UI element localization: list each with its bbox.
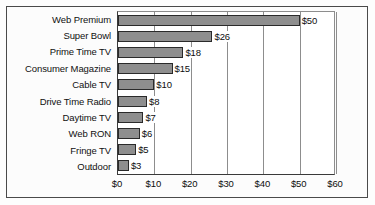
bar-value-label: $3 <box>131 160 142 171</box>
x-tick-label: $20 <box>182 178 198 189</box>
bar-value-label: $26 <box>214 31 231 42</box>
x-tick-label: $30 <box>218 178 234 189</box>
category-label: Consumer Magazine <box>8 63 114 74</box>
bar-row: $5 <box>118 144 334 155</box>
bar-row: $18 <box>118 47 334 58</box>
category-label: Prime Time TV <box>8 46 114 57</box>
bar-chart-figure: Web PremiumSuper BowlPrime Time TVConsum… <box>0 0 375 205</box>
bar-row: $50 <box>118 15 334 26</box>
x-tick-label: $10 <box>146 178 162 189</box>
bar-value-label: $10 <box>156 79 173 90</box>
bar <box>118 15 300 26</box>
bar-row: $10 <box>118 79 334 90</box>
bar <box>118 47 183 58</box>
bar-row: $8 <box>118 96 334 107</box>
bar <box>118 96 147 107</box>
bar <box>118 112 143 123</box>
bar-row: $15 <box>118 63 334 74</box>
category-label: Web Premium <box>8 14 114 25</box>
bar-row: $7 <box>118 112 334 123</box>
bar <box>118 31 212 42</box>
category-label: Outdoor <box>8 161 114 172</box>
category-label: Super Bowl <box>8 30 114 41</box>
bar <box>118 63 173 74</box>
bar-value-label: $50 <box>302 15 319 26</box>
x-tick-label: $40 <box>255 178 271 189</box>
bar-value-label: $5 <box>138 144 149 155</box>
bar-row: $6 <box>118 128 334 139</box>
x-tick-label: $0 <box>112 178 122 189</box>
category-axis: Web PremiumSuper BowlPrime Time TVConsum… <box>8 11 114 175</box>
x-tick-label: $50 <box>291 178 307 189</box>
bars-layer: $50$26$18$15$10$8$7$6$5$3 <box>118 12 334 174</box>
category-label: Cable TV <box>8 79 114 90</box>
bar <box>118 79 154 90</box>
x-tick-label: $60 <box>327 178 343 189</box>
bar <box>118 160 129 171</box>
x-axis-tick-labels: $0$10$20$30$40$50$60 <box>117 178 335 192</box>
category-label: Web RON <box>8 128 114 139</box>
category-label: Drive Time Radio <box>8 96 114 107</box>
bar-value-label: $18 <box>185 47 202 58</box>
bar <box>118 144 136 155</box>
category-label: Daytime TV <box>8 112 114 123</box>
category-label: Fringe TV <box>8 145 114 156</box>
bar-row: $26 <box>118 31 334 42</box>
bar-value-label: $6 <box>142 128 153 139</box>
bar <box>118 128 140 139</box>
bar-row: $3 <box>118 160 334 171</box>
bar-value-label: $15 <box>175 63 192 74</box>
bar-value-label: $8 <box>149 96 160 107</box>
plot-area: $50$26$18$15$10$8$7$6$5$3 <box>117 11 335 175</box>
bar-value-label: $7 <box>145 112 156 123</box>
